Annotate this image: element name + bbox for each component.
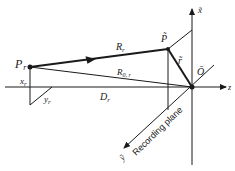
image-point-label: P̃ bbox=[160, 32, 167, 44]
source-point-label: Pr bbox=[14, 57, 27, 72]
radius-vector-label: r̃ bbox=[178, 55, 183, 66]
recording-plane-label: Recording plane bbox=[130, 105, 184, 158]
y-axis-label: ỹ bbox=[116, 152, 127, 163]
recording-geometry-diagram: Pr xr yr Dr Rr R0, r P̃ r̃ Ō x̃ z ỹ Reco… bbox=[0, 0, 235, 171]
diagram-canvas: Pr xr yr Dr Rr R0, r P̃ r̃ Ō x̃ z ỹ Reco… bbox=[0, 0, 235, 171]
reference-ray-label: R0, r bbox=[116, 67, 132, 78]
y-axis-recording-plane bbox=[124, 65, 214, 148]
image-point-projection bbox=[168, 30, 192, 49]
origin-label: Ō bbox=[197, 66, 204, 77]
ray-label: Rr bbox=[115, 41, 125, 54]
ray-r bbox=[30, 49, 168, 67]
origin-dot bbox=[190, 85, 195, 90]
image-point-dot bbox=[166, 47, 170, 51]
x-offset-label: xr bbox=[19, 76, 27, 88]
source-point-dot bbox=[28, 65, 33, 70]
y-offset-label: yr bbox=[43, 94, 51, 106]
x-axis-label: x̃ bbox=[197, 5, 203, 15]
ray-direction-arrow-icon bbox=[86, 55, 97, 64]
z-axis-label: z bbox=[227, 83, 232, 92]
distance-label: Dr bbox=[99, 91, 110, 104]
